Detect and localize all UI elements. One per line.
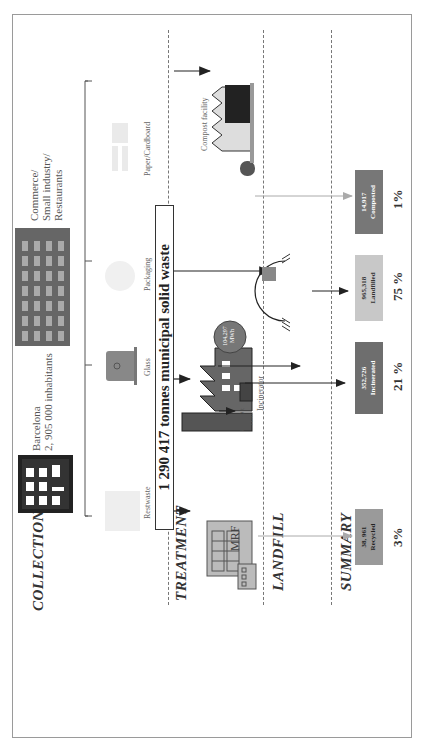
energy-value: 104,297	[222, 323, 229, 349]
commercial-line1: Commerce/	[28, 153, 40, 221]
glass-bin-icon	[106, 347, 137, 385]
residential-source-label: Barcelona 2, 905 000 inhabitants	[30, 353, 54, 451]
stream-label-packaging: Packaging	[143, 258, 152, 291]
landfilled-percent: 75 %	[390, 272, 406, 301]
landfilled-label: Landfilled	[369, 272, 378, 303]
incinerator-label: Incinerator	[256, 376, 265, 411]
summary-box-recycled: 38, 961 Recycled	[355, 509, 383, 565]
ash-unit: Ash	[246, 408, 254, 431]
paper-bin-icon	[112, 123, 128, 171]
residential-city: Barcelona	[30, 353, 42, 451]
packaging-bin-icon	[105, 261, 135, 291]
restwaste-bin-icon	[105, 491, 140, 531]
composted-label: Composted	[369, 185, 378, 219]
commercial-line3: Restaurants	[52, 153, 64, 221]
recycled-label: Recycled	[369, 524, 378, 551]
commercial-line2: Small industry/	[40, 153, 52, 221]
commercial-source-label: Commerce/ Small industry/ Restaurants	[28, 153, 64, 221]
energy-output-label: 104,297 MWh	[222, 323, 236, 349]
collection-bracket	[85, 81, 92, 516]
composted-value: 14,917	[360, 192, 369, 211]
waste-flow-diagram: COLLECTION TREATMENT LANDFILL SUMMARY	[0, 0, 423, 741]
summary-box-landfilled: 965,318 Landfilled	[355, 255, 383, 321]
stream-label-glass: Glass	[143, 358, 152, 376]
summary-box-composted: 14,917 Composted	[355, 170, 383, 234]
landfilled-value: 965,318	[360, 277, 369, 300]
incinerated-percent: 21 %	[390, 362, 406, 391]
mrf-label: MRF	[228, 526, 243, 551]
residential-building-icon	[18, 455, 73, 513]
composted-percent: 1%	[390, 190, 406, 210]
landfill-icon	[255, 254, 290, 331]
total-waste-bar: 1 290 417 tonnes municipal solid waste	[155, 205, 174, 530]
stream-label-paper: Paper/Cardboard	[143, 122, 152, 176]
summary-box-incinerated: 352,726 Incinerated	[355, 342, 383, 414]
incinerated-label: Incinerated	[369, 361, 378, 396]
stream-label-restwaste: Restwaste	[143, 487, 152, 519]
incinerated-value: 352,726	[360, 367, 369, 390]
residential-population: 2, 905 000 inhabitants	[42, 353, 54, 451]
recycled-value: 38, 961	[360, 527, 369, 548]
ash-value: 81,460 t	[238, 408, 246, 431]
commercial-building-icon	[15, 228, 70, 346]
compost-facility-label: Compost facility	[200, 97, 209, 151]
ash-output-label: 81,460 t Ash	[238, 408, 254, 431]
compost-facility-icon	[212, 83, 255, 176]
energy-unit: MWh	[229, 323, 236, 349]
recycled-percent: 3%	[390, 528, 406, 548]
